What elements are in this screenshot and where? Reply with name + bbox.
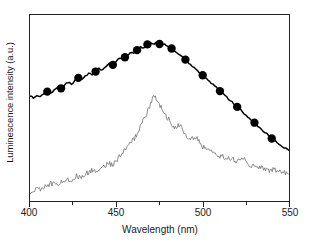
x-tick-minor (159, 202, 160, 205)
marker-point (143, 40, 151, 48)
marker-point (91, 67, 99, 75)
plot-svg (30, 15, 289, 201)
marker-point (74, 74, 82, 82)
marker-point (43, 87, 51, 95)
marker-point (167, 44, 175, 52)
marker-excitation-curve (30, 42, 289, 150)
marker-point (250, 119, 258, 127)
marker-points (43, 40, 276, 143)
luminescence-spectra-figure: Luminescence intensity (a.u.) 4004505005… (0, 0, 311, 252)
marker-point (268, 134, 276, 142)
x-tick-minor (72, 202, 73, 205)
y-axis-label-text: Luminescence intensity (a.u.) (4, 42, 15, 163)
marker-point (181, 55, 189, 63)
y-axis-label: Luminescence intensity (a.u.) (0, 0, 18, 205)
marker-point (233, 103, 241, 111)
marker-point (121, 53, 129, 61)
x-tick-label: 550 (270, 207, 310, 218)
marker-point (109, 61, 117, 69)
x-axis-label: Wavelength (nm) (29, 224, 291, 235)
x-tick-label: 500 (183, 207, 223, 218)
series-noisy-group (30, 95, 288, 194)
marker-point (216, 87, 224, 95)
marker-point (155, 40, 163, 48)
plot-area (29, 14, 290, 202)
x-tick-label: 450 (96, 207, 136, 218)
series-markers-group (30, 40, 289, 150)
x-tick-minor (246, 202, 247, 205)
noisy-emission-curve (30, 95, 288, 194)
x-tick-label: 400 (9, 207, 49, 218)
marker-point (133, 46, 141, 54)
marker-point (57, 84, 65, 92)
marker-point (198, 71, 206, 79)
